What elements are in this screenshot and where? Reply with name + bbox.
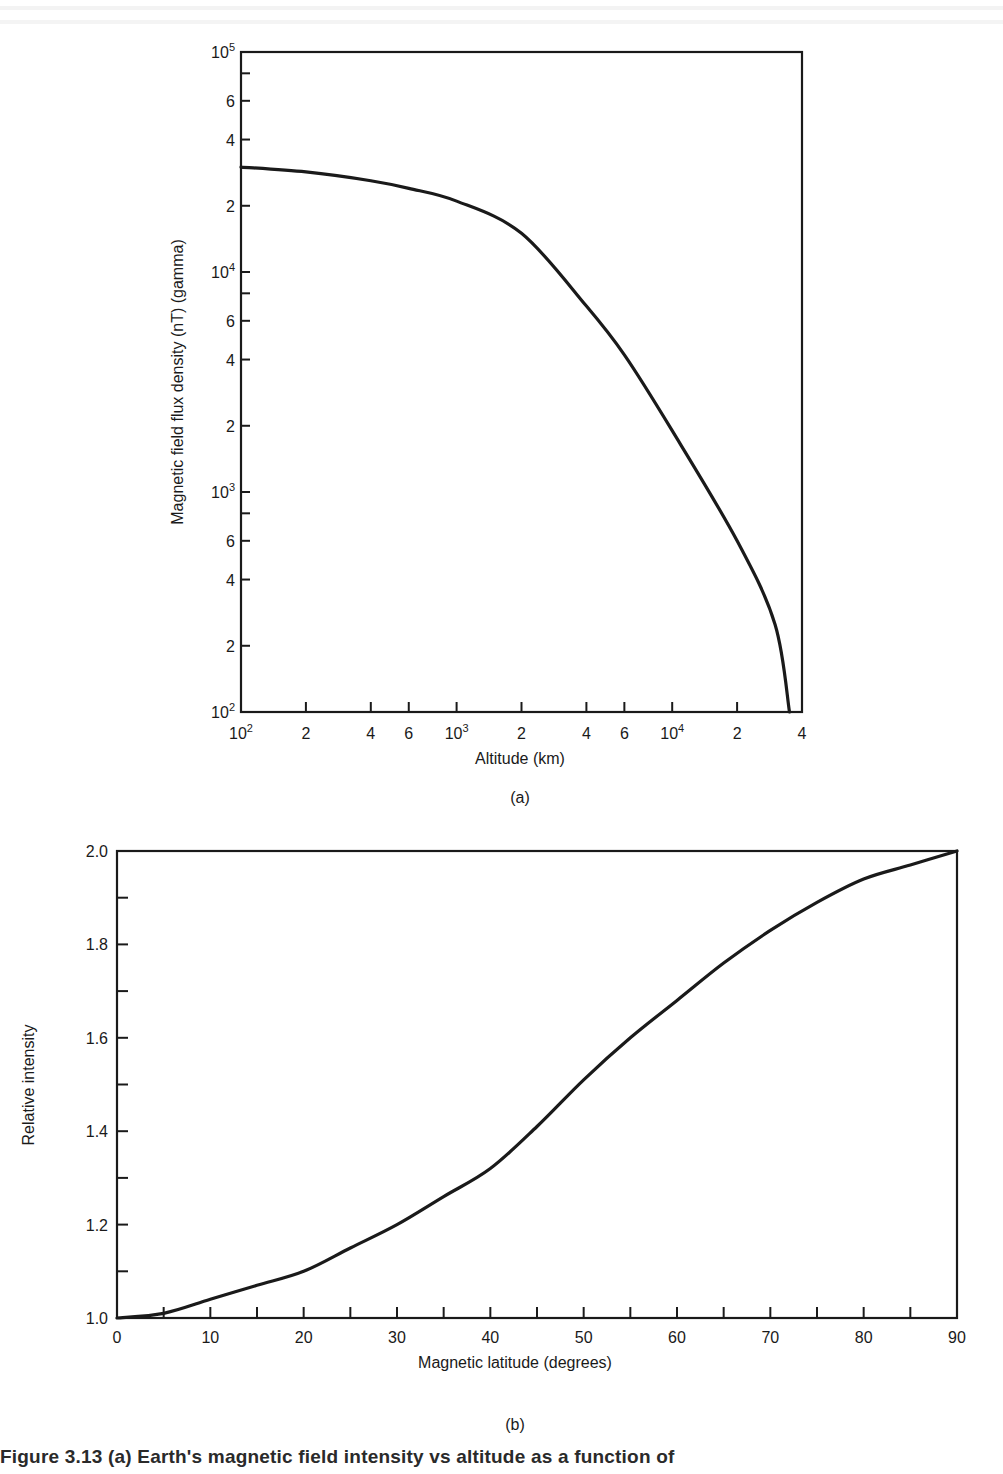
x-tick-label: 90 bbox=[948, 1329, 966, 1346]
x-tick-label: 4 bbox=[366, 725, 375, 742]
chart-a-y-axis: 102246103246104246105 bbox=[211, 41, 250, 721]
y-tick-label: 6 bbox=[226, 533, 235, 550]
x-tick-label: 4 bbox=[798, 725, 807, 742]
chart-b-y-axis: 1.01.21.41.61.82.0 bbox=[86, 843, 128, 1327]
panel-b-label: (b) bbox=[505, 1416, 525, 1433]
figure-canvas: 102246103246104246105 10224610324610424 … bbox=[0, 0, 1003, 1474]
y-tick-label: 2 bbox=[226, 198, 235, 215]
chart-a-y-label: Magnetic field flux density (nT) (gamma) bbox=[169, 239, 186, 524]
x-tick-label: 50 bbox=[575, 1329, 593, 1346]
figure-caption: Figure 3.13 (a) Earth's magnetic field i… bbox=[0, 1446, 1003, 1474]
x-tick-label: 80 bbox=[855, 1329, 873, 1346]
y-tick-label: 1.0 bbox=[86, 1310, 108, 1327]
x-tick-label: 20 bbox=[295, 1329, 313, 1346]
x-tick-label: 2 bbox=[301, 725, 310, 742]
chart-a: 102246103246104246105 10224610324610424 … bbox=[169, 41, 807, 806]
chart-b-y-label: Relative intensity bbox=[20, 1025, 37, 1146]
y-tick-label: 4 bbox=[226, 132, 235, 149]
x-tick-label: 102 bbox=[229, 722, 253, 742]
x-tick-label: 6 bbox=[620, 725, 629, 742]
x-tick-label: 10 bbox=[201, 1329, 219, 1346]
x-tick-label: 30 bbox=[388, 1329, 406, 1346]
chart-b-x-label: Magnetic latitude (degrees) bbox=[418, 1354, 612, 1371]
x-tick-label: 0 bbox=[113, 1329, 122, 1346]
chart-a-x-axis: 10224610324610424 bbox=[229, 702, 807, 742]
y-tick-label: 6 bbox=[226, 313, 235, 330]
x-tick-label: 40 bbox=[481, 1329, 499, 1346]
x-tick-label: 60 bbox=[668, 1329, 686, 1346]
x-tick-label: 104 bbox=[660, 722, 684, 742]
y-tick-label: 102 bbox=[211, 701, 235, 721]
y-tick-label: 4 bbox=[226, 352, 235, 369]
x-tick-label: 4 bbox=[582, 725, 591, 742]
x-tick-label: 2 bbox=[733, 725, 742, 742]
y-tick-label: 1.6 bbox=[86, 1030, 108, 1047]
y-tick-label: 6 bbox=[226, 93, 235, 110]
y-tick-label: 2 bbox=[226, 638, 235, 655]
chart-b-frame bbox=[117, 851, 957, 1318]
x-tick-label: 70 bbox=[761, 1329, 779, 1346]
chart-b-x-axis: 0102030405060708090 bbox=[113, 1307, 966, 1346]
chart-b-curve bbox=[117, 851, 957, 1318]
y-tick-label: 4 bbox=[226, 572, 235, 589]
panel-a-label: (a) bbox=[510, 789, 530, 806]
chart-a-curve bbox=[241, 167, 789, 712]
x-tick-label: 6 bbox=[404, 725, 413, 742]
y-tick-label: 104 bbox=[211, 261, 235, 281]
x-tick-label: 103 bbox=[445, 722, 469, 742]
y-tick-label: 103 bbox=[211, 481, 235, 501]
x-tick-label: 2 bbox=[517, 725, 526, 742]
y-tick-label: 1.8 bbox=[86, 936, 108, 953]
y-tick-label: 2 bbox=[226, 418, 235, 435]
chart-b: 1.01.21.41.61.82.0 0102030405060708090 M… bbox=[20, 843, 966, 1433]
y-tick-label: 2.0 bbox=[86, 843, 108, 860]
y-tick-label: 1.4 bbox=[86, 1123, 108, 1140]
chart-a-frame bbox=[241, 52, 802, 712]
y-tick-label: 105 bbox=[211, 41, 235, 61]
y-tick-label: 1.2 bbox=[86, 1217, 108, 1234]
chart-a-x-label: Altitude (km) bbox=[475, 750, 565, 767]
